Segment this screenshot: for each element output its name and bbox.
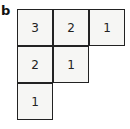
tableau-cell-r2-c2: 1 [53,46,89,83]
cell-value: 2 [31,58,39,72]
panel-label: b [1,4,10,17]
cell-value: 1 [31,95,39,109]
tableau-cell-r1-c3: 1 [89,9,125,46]
cell-value: 3 [31,21,39,35]
tableau-cell-r3-c1: 1 [17,83,53,120]
tableau-cell-r2-c1: 2 [17,46,53,83]
cell-value: 1 [103,21,111,35]
cell-value: 1 [67,58,75,72]
tableau-cell-r1-c1: 3 [17,9,53,46]
cell-value: 2 [67,21,75,35]
tableau-cell-r1-c2: 2 [53,9,89,46]
